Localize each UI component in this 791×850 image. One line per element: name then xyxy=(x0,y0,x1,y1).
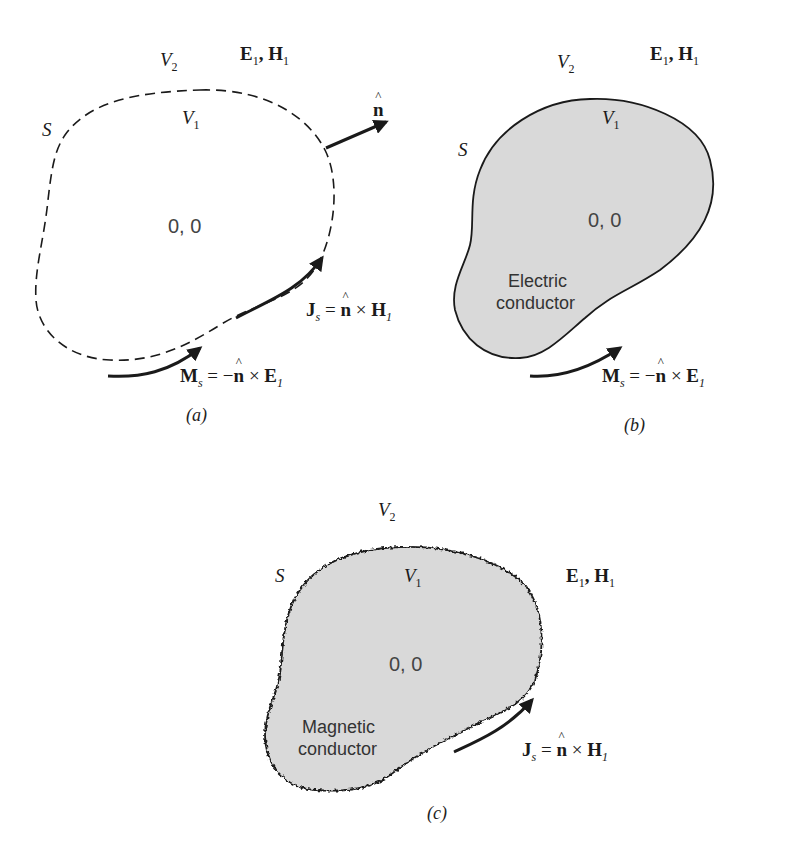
interior-fields-b: 0, 0 xyxy=(588,210,621,230)
region-v2-label-a: V2 xyxy=(160,50,178,73)
region-v1-label-c: V1 xyxy=(404,566,422,589)
material-label-c-line1: Magnetic xyxy=(302,718,375,736)
material-label-b-line1: Electric xyxy=(508,272,567,290)
fields-label-b: E1, H1 xyxy=(650,44,699,67)
fields-label-c: E1, H1 xyxy=(566,566,615,589)
region-v1-label-a: V1 xyxy=(182,108,200,131)
material-label-c-line2: conductor xyxy=(298,740,377,758)
surface-label-b: S xyxy=(458,140,468,159)
normal-arrow-a xyxy=(326,122,386,148)
caption-a: (a) xyxy=(186,406,207,424)
material-label-b-line2: conductor xyxy=(496,294,575,312)
js-equation-a: Js = n × H1 xyxy=(306,300,392,323)
diagram-canvas xyxy=(0,0,791,850)
region-v2-label-b: V2 xyxy=(557,52,575,75)
region-v1-label-b: V1 xyxy=(602,108,620,131)
surface-b-solid xyxy=(454,99,713,358)
caption-b: (b) xyxy=(624,416,645,434)
region-v2-label-c: V2 xyxy=(378,500,396,523)
ms-equation-a: Ms = −n × E1 xyxy=(180,366,283,389)
interior-fields-c: 0, 0 xyxy=(389,654,422,674)
surface-label-a: S xyxy=(42,120,52,139)
ms-equation-b: Ms = −n × E1 xyxy=(602,366,705,389)
panel-a-shape xyxy=(36,90,386,376)
panel-b-shape xyxy=(454,99,713,376)
normal-vector-label: n xyxy=(373,100,384,119)
js-equation-c: Js = n × H1 xyxy=(522,740,608,763)
fields-label-a: E1, H1 xyxy=(240,44,289,67)
interior-fields-a: 0, 0 xyxy=(168,216,201,236)
caption-c: (c) xyxy=(427,804,447,822)
surface-label-c: S xyxy=(275,566,285,585)
